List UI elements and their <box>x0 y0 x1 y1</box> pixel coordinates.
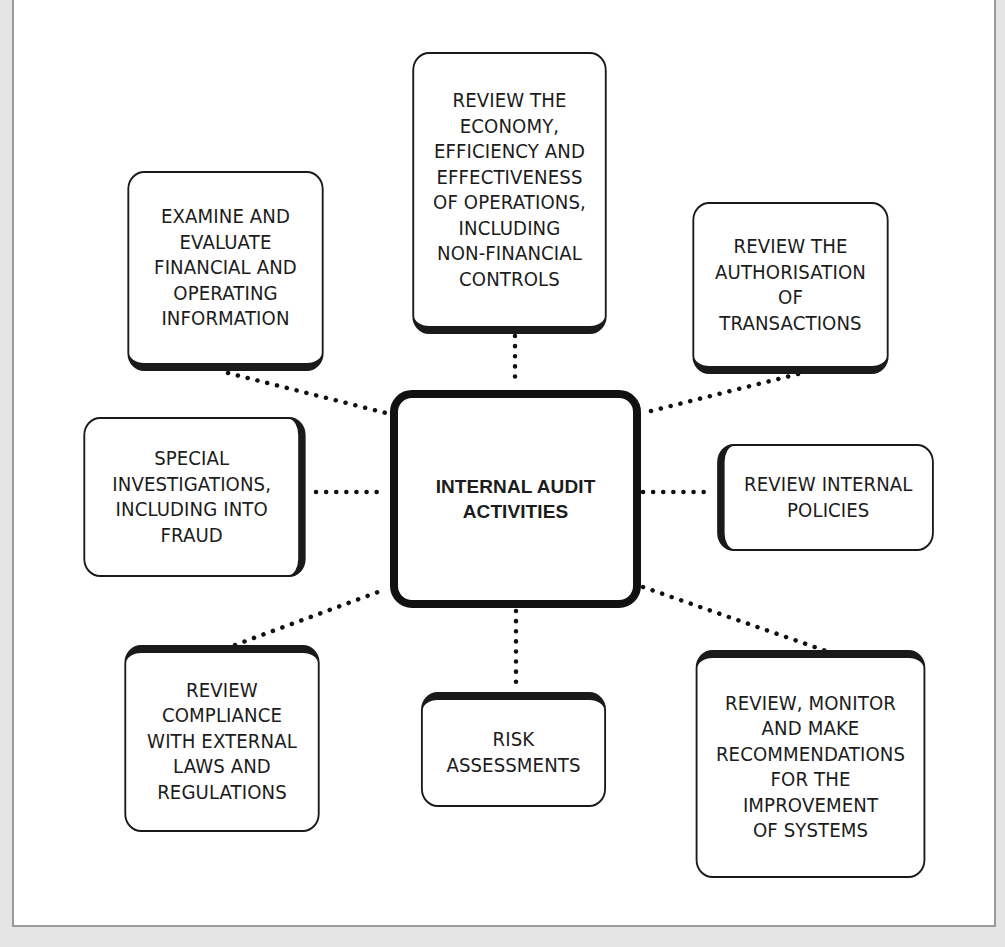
node-label: REVIEW THE ECONOMY, EFFICIENCY AND EFFEC… <box>433 88 586 292</box>
node-label: SPECIAL INVESTIGATIONS, INCLUDING INTO F… <box>112 446 271 548</box>
node-label: REVIEW, MONITOR AND MAKE RECOMMENDATIONS… <box>716 691 905 844</box>
center-node-internal-audit-activities: INTERNAL AUDIT ACTIVITIES <box>390 390 641 608</box>
node-review-authorisation: REVIEW THE AUTHORISATION OF TRANSACTIONS <box>692 202 888 374</box>
node-review-economy-efficiency: REVIEW THE ECONOMY, EFFICIENCY AND EFFEC… <box>412 52 606 334</box>
node-label: RISK ASSESSMENTS <box>446 727 580 778</box>
node-label: EXAMINE AND EVALUATE FINANCIAL AND OPERA… <box>154 204 297 332</box>
node-label: REVIEW COMPLIANCE WITH EXTERNAL LAWS AND… <box>147 678 297 806</box>
node-risk-assessments: RISK ASSESSMENTS <box>421 692 606 807</box>
node-examine-financial-information: EXAMINE AND EVALUATE FINANCIAL AND OPERA… <box>127 171 323 371</box>
node-label: REVIEW INTERNAL POLICIES <box>744 472 912 523</box>
node-review-compliance: REVIEW COMPLIANCE WITH EXTERNAL LAWS AND… <box>124 645 319 832</box>
node-review-monitor-recommendations: REVIEW, MONITOR AND MAKE RECOMMENDATIONS… <box>696 650 926 878</box>
node-review-internal-policies: REVIEW INTERNAL POLICIES <box>717 444 934 551</box>
center-node-label: INTERNAL AUDIT ACTIVITIES <box>436 474 596 524</box>
node-label: REVIEW THE AUTHORISATION OF TRANSACTIONS <box>715 234 866 336</box>
node-special-investigations: SPECIAL INVESTIGATIONS, INCLUDING INTO F… <box>83 417 305 577</box>
